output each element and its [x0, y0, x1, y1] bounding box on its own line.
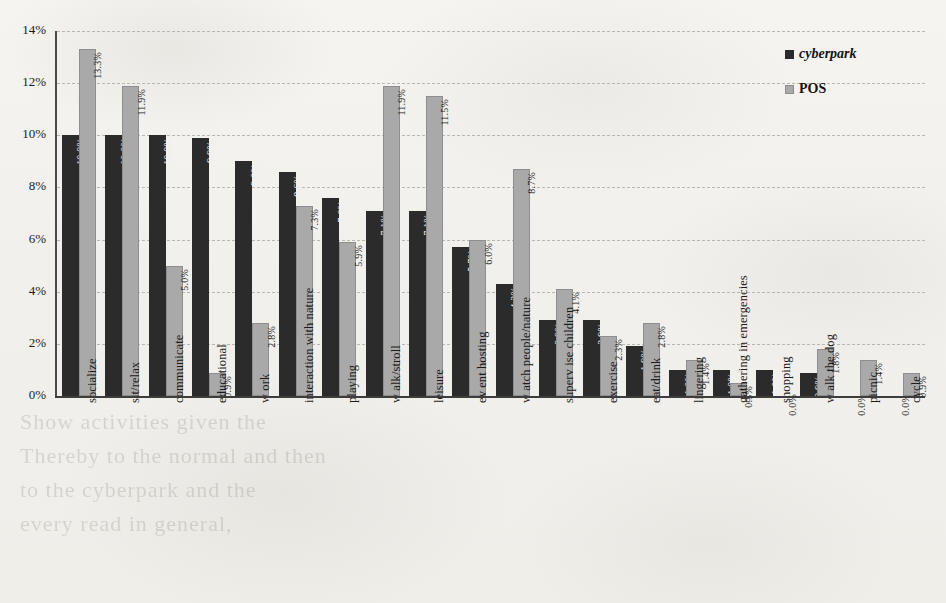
- bar-cyberpark: [235, 161, 252, 396]
- x-axis-category-label: educational: [215, 344, 230, 403]
- chart-legend: cyberpark POS: [785, 46, 857, 116]
- bar-value-label: 6.0%: [483, 243, 494, 265]
- gridline: [57, 31, 925, 32]
- y-axis-tick-label: 0%: [29, 387, 46, 403]
- x-axis-category-label: cycle: [909, 376, 924, 403]
- y-axis-tick-label: 6%: [29, 231, 46, 247]
- bar-value-label: 9.0%: [249, 164, 260, 186]
- bar-value-label: 8.7%: [526, 172, 537, 194]
- bar-cyberpark: [105, 135, 122, 396]
- bar-cyberpark: [149, 135, 166, 396]
- legend-label-pos: POS: [799, 81, 826, 97]
- legend-item-pos: POS: [785, 81, 857, 97]
- bar-value-label: 11.5%: [439, 99, 450, 125]
- x-axis-category-label: interaction with nature: [302, 288, 317, 403]
- bar-value-label: 11.9%: [396, 89, 407, 115]
- bar-pos: [426, 96, 443, 396]
- y-axis-tick-label: 8%: [29, 178, 46, 194]
- x-axis-category-label: w ork: [258, 374, 273, 403]
- x-axis-category-label: gathering in emergencies: [736, 275, 751, 403]
- bar-value-label: 2.8%: [656, 326, 667, 348]
- gridline: [57, 292, 925, 293]
- gridline: [57, 187, 925, 188]
- bar-value-label: 11.9%: [136, 89, 147, 115]
- gridline: [57, 240, 925, 241]
- legend-swatch-pos: [785, 85, 794, 94]
- bar-cyberpark: [366, 211, 383, 396]
- y-axis-line: [55, 31, 57, 398]
- bar-value-label: 8.6%: [292, 175, 303, 197]
- x-axis-category-label: w atch people/nature: [519, 297, 534, 403]
- x-axis-line: [55, 396, 925, 398]
- grouped-bar-chart: 0%2%4%6%8%10%12%14%10.0%13.3%socialize10…: [0, 0, 946, 603]
- gridline: [57, 135, 925, 136]
- bar-value-label: 7.6%: [336, 201, 347, 223]
- bar-cyberpark: [192, 138, 209, 396]
- bar-pos: [122, 86, 139, 396]
- gridline: [57, 344, 925, 345]
- bar-value-label: 5.9%: [353, 245, 364, 267]
- y-axis-tick-label: 12%: [22, 74, 46, 90]
- y-axis-tick-label: 10%: [22, 126, 46, 142]
- bar-cyberpark: [322, 198, 339, 396]
- legend-swatch-cyberpark: [785, 50, 794, 59]
- x-axis-category-label: picnic: [866, 372, 881, 403]
- bar-value-label: 10.0%: [162, 138, 173, 165]
- bar-cyberpark: [62, 135, 79, 396]
- y-axis-tick-label: 14%: [22, 22, 46, 38]
- bar-value-label: 2.8%: [266, 326, 277, 348]
- bar-pos: [79, 49, 96, 396]
- legend-label-cyberpark: cyberpark: [799, 46, 857, 62]
- bar-value-label: 9.9%: [205, 141, 216, 163]
- y-axis-tick-label: 4%: [29, 283, 46, 299]
- bar-cyberpark: [409, 211, 426, 396]
- x-axis-category-label: ev ent hosting: [475, 331, 490, 403]
- bar-value-label: 5.0%: [179, 269, 190, 291]
- bar-value-label: 13.3%: [92, 52, 103, 79]
- x-axis-category-label: w alk/stroll: [389, 345, 404, 403]
- y-axis-tick-label: 2%: [29, 335, 46, 351]
- bar-value-label: 7.3%: [309, 209, 320, 231]
- bar-value-label: 2.3%: [613, 339, 624, 361]
- bar-cyberpark: [279, 172, 296, 396]
- x-axis-category-label: communicate: [172, 335, 187, 403]
- x-axis-category-label: w alk the dog: [823, 334, 838, 403]
- x-axis-category-label: superv ise children: [562, 307, 577, 403]
- legend-item-cyberpark: cyberpark: [785, 46, 857, 62]
